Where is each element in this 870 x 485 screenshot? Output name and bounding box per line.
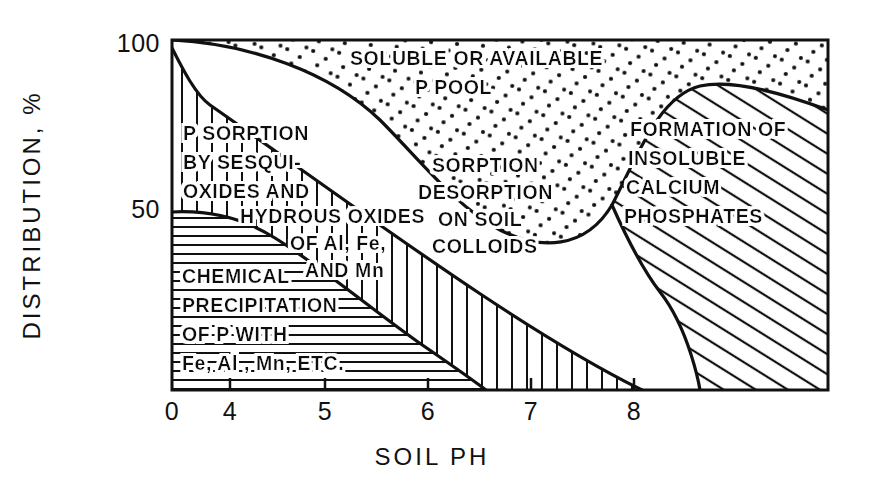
label-p-sorption-line-4: HYDROUS OXIDES <box>240 205 425 227</box>
x-tick-label-8: 8 <box>627 397 641 425</box>
x-tick-label-0: 0 <box>165 397 179 425</box>
y-tick-label-100: 100 <box>117 29 160 57</box>
label-soluble-p-pool-line-2: P POOL <box>415 76 492 98</box>
figure-root: SOLUBLE OR AVAILABLE P POOL P SORPTION B… <box>0 0 870 485</box>
x-tick-label-7: 7 <box>524 397 538 425</box>
label-soluble-p-pool-line-1: SOLUBLE OR AVAILABLE <box>350 47 603 69</box>
label-chemical-precipitation-line-2: PRECIPITATION <box>182 294 338 316</box>
y-axis-title: DISTRIBUTION, % <box>18 90 45 339</box>
label-sorption-desorption-line-1: SORPTION <box>432 154 539 176</box>
y-axis-tick-labels: 100 50 <box>117 29 160 223</box>
x-axis-title: SOIL PH <box>375 443 490 470</box>
label-sorption-desorption-line-3: ON SOIL <box>438 208 522 230</box>
label-calcium-phosphates-line-2: INSOLUBLE <box>628 147 746 169</box>
label-p-sorption-line-6: AND Mn <box>305 259 384 281</box>
x-tick-label-4: 4 <box>223 397 237 425</box>
label-chemical-precipitation-line-1: CHEMICAL <box>182 265 290 287</box>
label-calcium-phosphates-line-3: CALCIUM <box>626 176 720 198</box>
label-calcium-phosphates-line-1: FORMATION OF <box>630 118 786 140</box>
label-sorption-desorption-line-2: DESORPTION <box>418 181 553 203</box>
label-sorption-desorption-line-4: COLLOIDS <box>432 235 538 257</box>
label-calcium-phosphates-line-4: PHOSPHATES <box>624 205 763 227</box>
label-p-sorption-line-5: OF Al, Fe, <box>290 232 386 254</box>
soil-ph-phosphorus-distribution-chart: SOLUBLE OR AVAILABLE P POOL P SORPTION B… <box>0 0 870 485</box>
x-axis-tick-labels: 0 4 5 6 7 8 <box>165 397 641 425</box>
label-p-sorption-line-1: P SORPTION <box>183 122 309 144</box>
x-tick-label-5: 5 <box>318 397 332 425</box>
label-p-sorption-line-2: BY SESQUI- <box>183 151 301 173</box>
label-chemical-precipitation-line-4: Fe, Al , Mn, ETC. <box>182 352 344 374</box>
label-p-sorption-line-3: OXIDES AND <box>183 180 310 202</box>
label-chemical-precipitation-line-3: OF P WITH <box>182 323 288 345</box>
y-tick-label-50: 50 <box>131 195 160 223</box>
x-tick-label-6: 6 <box>421 397 435 425</box>
